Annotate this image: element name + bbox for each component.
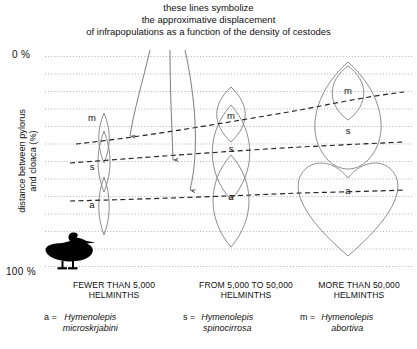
marker-m-col2: m (227, 110, 235, 121)
trend-line-a (70, 190, 404, 201)
legend-species-m: Hymenolepis abortiva (315, 312, 373, 334)
distribution-shape-s-col3 (315, 62, 381, 169)
legend-genus-s: Hymenolepis (201, 312, 253, 323)
column-header-line-2: HELMINTHS (300, 290, 417, 300)
column-header-line-2: HELMINTHS (182, 290, 310, 300)
marker-m-col3: m (344, 85, 352, 96)
marker-s-col3: s (346, 125, 351, 136)
legend-key-s: s = (183, 312, 195, 323)
duck-silhouette-icon (46, 233, 96, 270)
annotation-arrows (130, 50, 195, 190)
column-1-distributions (98, 113, 110, 235)
legend-entry-a: a = Hymenolepis microskrjabini (44, 312, 118, 334)
legend-epithet-s: spinocirrosa (201, 323, 253, 334)
legend-epithet-m: abortiva (321, 323, 373, 334)
gridlines (45, 57, 412, 267)
marker-s-col1: s (90, 161, 95, 172)
marker-m-col1: m (88, 112, 96, 123)
column-header-line-2: HELMINTHS (50, 290, 178, 300)
column-header-more-than-50000: MORE THAN 50,000 HELMINTHS (300, 280, 417, 301)
marker-a-col3: a (345, 185, 351, 196)
legend-entry-m: m = Hymenolepis abortiva (300, 312, 373, 334)
species-legend: a = Hymenolepis microskrjabini s = Hymen… (0, 312, 417, 346)
legend-entry-s: s = Hymenolepis spinocirrosa (183, 312, 253, 334)
legend-species-a: Hymenolepis microskrjabini (57, 312, 118, 334)
annotation-arrow-1 (130, 50, 150, 136)
legend-epithet-a: microskrjabini (63, 323, 118, 334)
column-header-line-1: MORE THAN 50,000 (300, 280, 417, 290)
distribution-shape-m-col1 (99, 113, 110, 163)
column-header-line-1: FROM 5,000 TO 50,000 (182, 280, 310, 290)
column-2-markers: m s a (227, 110, 235, 202)
column-header-5000-to-50000: FROM 5,000 TO 50,000 HELMINTHS (182, 280, 310, 301)
column-headers: FEWER THAN 5,000 HELMINTHS FROM 5,000 TO… (0, 280, 417, 304)
column-header-fewer-than-5000: FEWER THAN 5,000 HELMINTHS (50, 280, 178, 301)
annotation-arrow-3 (185, 50, 195, 190)
marker-a-col2: a (228, 191, 234, 202)
legend-species-s: Hymenolepis spinocirrosa (195, 312, 253, 334)
figure-container: these lines symbolize the approximative … (0, 0, 417, 349)
distribution-shape-a-col3 (298, 163, 398, 256)
column-header-line-1: FEWER THAN 5,000 (50, 280, 178, 290)
distribution-shape-a-col1 (99, 177, 110, 235)
annotation-arrow-2 (170, 50, 173, 160)
legend-genus-a: Hymenolepis (63, 312, 118, 323)
marker-s-col2: s (229, 143, 234, 154)
legend-key-a: a = (44, 312, 57, 323)
legend-key-m: m = (300, 312, 315, 323)
trend-line-s (70, 142, 404, 163)
trend-lines (70, 92, 404, 201)
legend-genus-m: Hymenolepis (321, 312, 373, 323)
